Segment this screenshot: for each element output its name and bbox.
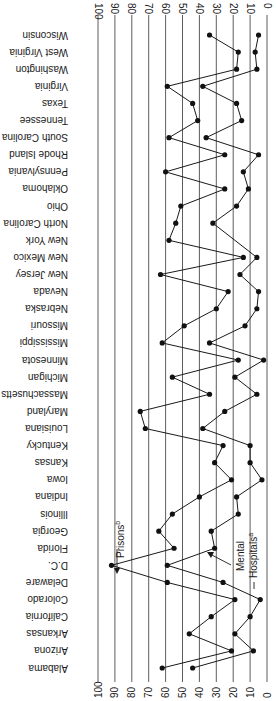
data-point xyxy=(256,289,261,294)
data-point xyxy=(251,648,256,653)
tick-label-top-90: 90 xyxy=(109,3,120,15)
tick-label-top-0: 0 xyxy=(262,3,273,9)
tick-label-100: 100 xyxy=(93,681,104,698)
state-label: Minnesota xyxy=(21,355,68,366)
state-label: Texas xyxy=(42,98,68,109)
data-point xyxy=(241,255,246,260)
tick-label-50: 50 xyxy=(177,686,188,698)
data-point xyxy=(207,32,212,37)
data-point xyxy=(222,186,227,191)
state-label: D.C. xyxy=(48,560,68,571)
data-point xyxy=(248,443,253,448)
tick-label-20: 20 xyxy=(228,686,239,698)
data-point xyxy=(138,409,143,414)
state-label: Florida xyxy=(37,543,68,554)
data-point xyxy=(234,67,239,72)
data-point xyxy=(229,477,234,482)
tick-label-top-60: 60 xyxy=(160,3,171,15)
data-point xyxy=(209,529,214,534)
state-label: Nebraska xyxy=(25,303,68,314)
mental-hospitals-annotation-line1: Mental xyxy=(235,541,246,571)
data-point xyxy=(241,169,246,174)
data-point xyxy=(143,426,148,431)
state-label: West Virginia xyxy=(9,47,68,58)
tick-label-30: 30 xyxy=(211,686,222,698)
chart: 1009080706050403020100100908070605040302… xyxy=(0,0,276,701)
data-point xyxy=(226,289,231,294)
data-point xyxy=(156,529,161,534)
data-point xyxy=(165,580,170,585)
state-label: Colorado xyxy=(27,594,68,605)
tick-label-top-30: 30 xyxy=(211,3,222,15)
data-point xyxy=(232,597,237,602)
tick-label-top-70: 70 xyxy=(143,3,154,15)
data-point xyxy=(234,203,239,208)
data-point xyxy=(256,152,261,157)
data-point xyxy=(182,323,187,328)
data-point xyxy=(200,426,205,431)
value-gridlines xyxy=(98,15,267,682)
state-label: California xyxy=(25,611,68,622)
data-point xyxy=(232,375,237,380)
state-label: Alabama xyxy=(28,663,68,674)
data-point xyxy=(165,563,170,568)
data-point xyxy=(190,665,195,670)
state-label: Tennessee xyxy=(19,115,68,126)
tick-label-80: 80 xyxy=(126,686,137,698)
state-label: Iowa xyxy=(46,474,68,485)
data-point xyxy=(158,272,163,277)
state-label: Ohio xyxy=(46,201,68,212)
data-point xyxy=(170,375,175,380)
data-point xyxy=(166,135,171,140)
tick-label-10: 10 xyxy=(245,686,256,698)
data-point xyxy=(209,614,214,619)
data-point xyxy=(204,135,209,140)
state-label: Virginia xyxy=(34,81,68,92)
data-point xyxy=(234,494,239,499)
data-point xyxy=(160,340,165,345)
data-point xyxy=(246,186,251,191)
data-point xyxy=(256,32,261,37)
data-point xyxy=(207,340,212,345)
data-series xyxy=(109,32,266,670)
data-point xyxy=(207,392,212,397)
data-point xyxy=(195,118,200,123)
series-line xyxy=(112,35,244,668)
data-point xyxy=(109,563,114,568)
data-point xyxy=(254,306,259,311)
data-point xyxy=(220,443,225,448)
state-label: Mississippi xyxy=(20,337,68,348)
state-label: North Carolina xyxy=(3,218,68,229)
state-label: Louisiana xyxy=(25,423,68,434)
state-label: Kentucky xyxy=(27,440,68,451)
data-point xyxy=(212,546,217,551)
tick-label-top-80: 80 xyxy=(126,3,137,15)
data-point xyxy=(258,597,263,602)
data-point xyxy=(253,50,258,55)
data-point xyxy=(222,152,227,157)
data-point xyxy=(190,101,195,106)
data-point xyxy=(170,511,175,516)
prisons-annotation: Prisonsb xyxy=(114,521,126,574)
tick-label-top-20: 20 xyxy=(228,3,239,15)
annotations: Prisonsb Mental Hospitalsa xyxy=(114,521,259,589)
data-point xyxy=(187,631,192,636)
state-label: Michigan xyxy=(28,372,68,383)
data-point xyxy=(259,477,264,482)
data-point xyxy=(236,50,241,55)
data-point xyxy=(178,203,183,208)
data-point xyxy=(210,221,215,226)
prisons-annotation-label: Prisonsb xyxy=(114,521,126,558)
data-point xyxy=(239,118,244,123)
data-point xyxy=(229,648,234,653)
state-label: New Jersey xyxy=(16,269,68,280)
state-label: South Carolina xyxy=(1,132,68,143)
state-label: Maryland xyxy=(27,406,68,417)
tick-label-60: 60 xyxy=(160,686,171,698)
tick-label-top-10: 10 xyxy=(245,3,256,15)
state-label: Arizona xyxy=(34,645,68,656)
tick-label-top-100: 100 xyxy=(93,3,104,20)
state-label: Pennsylvania xyxy=(8,166,68,177)
data-point xyxy=(232,631,237,636)
state-label: Missouri xyxy=(31,320,68,331)
